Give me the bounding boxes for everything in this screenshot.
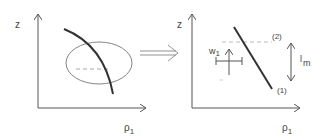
left-z-label: z	[15, 19, 20, 30]
segment	[234, 27, 272, 89]
curve	[64, 29, 113, 94]
diagram: z ρ1 z ρ1 w1 lm (2) (1)	[0, 0, 327, 140]
ellipse-region	[66, 42, 132, 84]
point-2-label: (2)	[272, 32, 282, 41]
right-z-label: z	[177, 19, 182, 30]
right-rho-label: ρ1	[282, 122, 293, 136]
left-rho-label: ρ1	[124, 122, 135, 136]
lm-label: lm	[300, 54, 311, 68]
left-panel: z ρ1	[15, 14, 146, 136]
right-panel: z ρ1 w1 lm (2) (1)	[177, 14, 311, 136]
transition-arrow	[140, 45, 178, 61]
w1-label: w1	[208, 46, 221, 58]
point-1-label: (1)	[277, 86, 287, 95]
